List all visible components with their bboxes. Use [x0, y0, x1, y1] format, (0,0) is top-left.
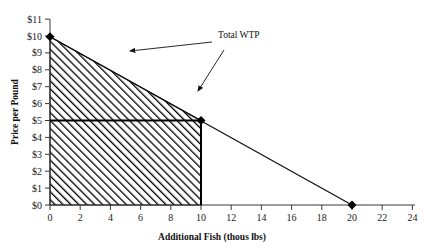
y-tick-label: $2	[32, 166, 42, 177]
y-tick-label: $8	[32, 64, 42, 75]
x-tick-label: 16	[287, 212, 297, 223]
annotation-arrow-to-region	[130, 42, 212, 51]
chart-container: $0 $1 $2 $3 $4 $5 $6 $7 $8 $9 $10 $11 0 …	[0, 0, 424, 252]
y-tick-label: $9	[32, 47, 42, 58]
y-axis-ticks	[45, 19, 50, 205]
x-axis	[50, 205, 415, 210]
y-axis	[45, 19, 50, 205]
annotation-label-total-wtp: Total WTP	[218, 30, 260, 40]
x-tick-label: 24	[407, 212, 417, 223]
y-tick-label: $0	[32, 200, 42, 211]
x-axis-tick-labels: 0 2 4 6 8 10 12 14 16 18 20 22 24	[48, 212, 418, 223]
total-wtp-annotation: Total WTP	[130, 30, 260, 91]
x-tick-label: 0	[48, 212, 53, 223]
y-tick-label: $3	[32, 149, 42, 160]
y-tick-label: $11	[27, 14, 42, 25]
x-tick-label: 10	[196, 212, 206, 223]
x-tick-label: 22	[377, 212, 387, 223]
y-axis-tick-labels: $0 $1 $2 $3 $4 $5 $6 $7 $8 $9 $10 $11	[27, 14, 42, 211]
y-tick-label: $7	[32, 81, 42, 92]
x-axis-title: Additional Fish (thous lbs)	[158, 232, 266, 243]
x-axis-ticks	[50, 205, 412, 210]
x-tick-label: 8	[168, 212, 173, 223]
x-tick-label: 18	[317, 212, 327, 223]
x-tick-label: 2	[78, 212, 83, 223]
y-tick-label: $6	[32, 98, 42, 109]
willingness-to-pay-chart: $0 $1 $2 $3 $4 $5 $6 $7 $8 $9 $10 $11 0 …	[0, 0, 424, 252]
data-point-marker	[348, 201, 357, 210]
x-tick-label: 20	[347, 212, 357, 223]
x-tick-label: 4	[108, 212, 113, 223]
x-tick-label: 6	[138, 212, 143, 223]
y-tick-label: $10	[27, 31, 42, 42]
x-tick-label: 14	[256, 212, 266, 223]
y-tick-label: $1	[32, 183, 42, 194]
y-tick-label: $4	[32, 132, 42, 143]
y-axis-title: Price per Pound	[10, 78, 20, 145]
x-tick-label: 12	[226, 212, 236, 223]
y-tick-label: $5	[32, 115, 42, 126]
annotation-arrow-to-point	[198, 50, 224, 91]
